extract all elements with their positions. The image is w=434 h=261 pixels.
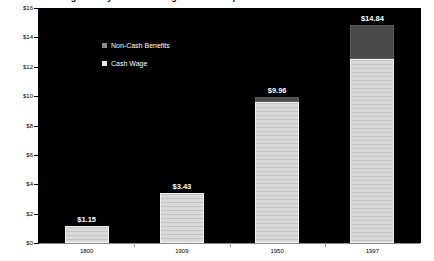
x-axis-label-1909: 1909: [175, 248, 188, 254]
y-axis-tick-label: $0: [3, 240, 33, 246]
bar-segment-cash-wage[interactable]: [255, 102, 299, 243]
y-axis-tick-label: $8: [3, 123, 33, 129]
y-axis-tick-label: $16: [3, 5, 33, 11]
y-axis-tick-label: $10: [3, 93, 33, 99]
x-axis-tick: [325, 243, 326, 247]
bar-1800[interactable]: [65, 226, 109, 243]
bar-1909[interactable]: [160, 193, 204, 243]
bar-value-label-1909: $3.43: [172, 182, 191, 191]
legend-label-non-cash-benefits: Non-Cash Benefits: [111, 42, 170, 49]
bar-segment-cash-wage[interactable]: [350, 59, 394, 243]
legend-label-cash-wage: Cash Wage: [111, 60, 147, 67]
y-axis-tick: [34, 214, 39, 215]
legend-swatch-icon-cash-wage: [102, 61, 107, 66]
y-axis-tick-label: $14: [3, 34, 33, 40]
bar-segment-cash-wage[interactable]: [160, 193, 204, 243]
chart-title-text: Average Hourly Manufacturing Worker Comp…: [46, 0, 275, 2]
x-axis-tick: [134, 243, 135, 247]
y-axis-tick-label: $6: [3, 152, 33, 158]
legend-item-cash-wage: Cash Wage: [102, 60, 170, 67]
y-axis-tick: [34, 155, 39, 156]
bar-1997[interactable]: [350, 25, 394, 243]
x-axis-tick: [230, 243, 231, 247]
y-axis-tick: [34, 184, 39, 185]
y-axis-tick-label: $2: [3, 211, 33, 217]
y-axis-tick: [34, 8, 39, 9]
bar-value-label-1997: $14.84: [361, 14, 384, 23]
y-axis-tick: [34, 126, 39, 127]
y-axis-tick: [34, 37, 39, 38]
y-axis-tick-label: $4: [3, 181, 33, 187]
legend: Non-Cash Benefits Cash Wage: [102, 42, 170, 78]
bar-segment-cash-wage[interactable]: [65, 226, 109, 243]
legend-swatch-icon-non-cash-benefits: [102, 43, 107, 48]
bar-segment-non-cash-benefits[interactable]: [255, 97, 299, 102]
chart-title-clipped: Average Hourly Manufacturing Worker Comp…: [0, 0, 434, 2]
bar-1950[interactable]: [255, 97, 299, 243]
bar-value-label-1800: $1.15: [77, 215, 96, 224]
chart-root: Average Hourly Manufacturing Worker Comp…: [0, 0, 434, 261]
y-axis-tick: [34, 96, 39, 97]
bar-segment-non-cash-benefits[interactable]: [350, 25, 394, 59]
y-axis-tick-label: $12: [3, 64, 33, 70]
legend-item-non-cash-benefits: Non-Cash Benefits: [102, 42, 170, 49]
bar-value-label-1950: $9.96: [268, 86, 287, 95]
y-axis-tick: [34, 243, 39, 244]
x-axis-label-1997: 1997: [366, 248, 379, 254]
x-axis-label-1800: 1800: [80, 248, 93, 254]
x-axis-label-1950: 1950: [270, 248, 283, 254]
y-axis-tick: [34, 67, 39, 68]
